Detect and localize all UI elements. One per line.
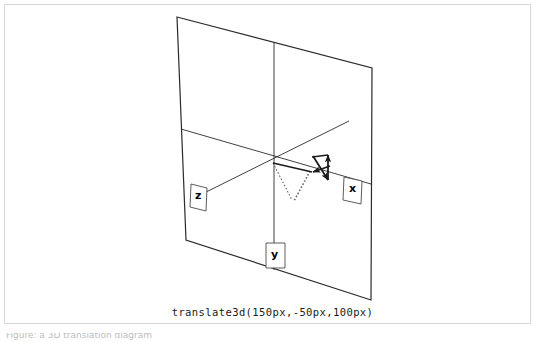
axis-label-x: x <box>349 183 356 194</box>
figure-frame <box>4 4 531 324</box>
figure-page: z x y translate3d(150px,-50px,100px) Fig… <box>0 0 545 342</box>
axis-label-z: z <box>195 190 201 201</box>
axis-label-y: y <box>271 249 278 260</box>
cutoff-caption: Figure: a 3D translation diagram <box>6 333 152 340</box>
figure-caption: translate3d(150px,-50px,100px) <box>0 306 545 318</box>
cutoff-text-strip: Figure: a 3D translation diagram <box>4 333 531 342</box>
